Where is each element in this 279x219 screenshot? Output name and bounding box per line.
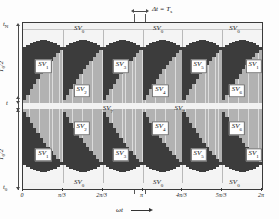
y-axis-label-t: t bbox=[6, 99, 8, 106]
sv-zero-label: SV0 bbox=[74, 24, 84, 33]
sv-active-label-dark: SV3 bbox=[113, 59, 129, 72]
x-tick-label: 0 bbox=[21, 192, 24, 198]
sv-label-subscript: 3 bbox=[124, 154, 127, 159]
x-tick-mark bbox=[142, 188, 143, 191]
delta-t-text: Δt = T bbox=[152, 5, 170, 13]
y-tick-tN-sub: N bbox=[5, 24, 9, 29]
y-mid-arrow-bottom bbox=[16, 108, 20, 111]
zero-vector-strip-mid bbox=[23, 103, 262, 109]
x-axis-label: ωt bbox=[116, 206, 123, 214]
sv-label-subscript: 4 bbox=[163, 90, 166, 95]
y-axis-label-t-text: t bbox=[6, 99, 8, 106]
sv-label-subscript: 1 bbox=[46, 154, 49, 159]
y-half-period-label-upper: T0/2 bbox=[0, 61, 6, 72]
x-tick-mark bbox=[22, 188, 23, 191]
sv-zero-label: SV7 bbox=[103, 104, 113, 113]
y-measure-lower bbox=[18, 112, 19, 190]
sv-label-text: SV bbox=[174, 104, 182, 112]
sv-label-text: SV bbox=[155, 123, 163, 131]
sv-label-subscript: 0 bbox=[237, 183, 240, 188]
sv-label-text: SV bbox=[153, 178, 161, 186]
plot-area: SV0SV0SV0SV1SV3SV5SV1SV2SV4SV6SV7SV7SV2S… bbox=[22, 22, 263, 190]
y-measure-upper-arrow-top bbox=[16, 23, 20, 26]
sv-label-text: SV bbox=[232, 123, 240, 131]
sv-active-label-light: SV2 bbox=[73, 122, 89, 135]
x-tick-mark bbox=[102, 188, 103, 191]
half-period-lower-T: T bbox=[0, 157, 4, 161]
sv-label-subscript: 6 bbox=[240, 90, 243, 95]
sv-active-label-light: SV4 bbox=[152, 84, 168, 97]
sv-label-subscript: 0 bbox=[82, 183, 85, 188]
sv-active-label-dark: SV3 bbox=[113, 148, 129, 161]
delta-t-label: Δt = Ts bbox=[152, 5, 172, 14]
sv-label-subscript: 0 bbox=[237, 28, 240, 33]
delta-t-arrow-right bbox=[146, 9, 149, 13]
sv-zero-label: SV0 bbox=[229, 24, 239, 33]
sv-label-text: SV bbox=[38, 60, 46, 68]
sv-label-subscript: 0 bbox=[161, 183, 164, 188]
x-axis-arrow-line bbox=[131, 210, 149, 211]
half-period-upper-den: /2 bbox=[0, 61, 4, 66]
y-half-period-label-lower: T0/2 bbox=[0, 149, 6, 160]
sv-active-label-light: SV2 bbox=[73, 84, 89, 97]
figure-svm-switching-pattern: Δt = Ts tN t0 t T0/2 T0/2 SV0SV0SV0SV1SV… bbox=[0, 0, 279, 219]
sv-label-text: SV bbox=[232, 85, 240, 93]
sv-segment-dark bbox=[259, 162, 263, 165]
x-tick-label: 2π bbox=[258, 192, 264, 198]
sv-label-text: SV bbox=[116, 149, 124, 157]
y-measure-lower-arrow-bottom bbox=[16, 187, 20, 190]
sv-zero-label: SV0 bbox=[153, 24, 163, 33]
sv-label-text: SV bbox=[248, 149, 256, 157]
sv-label-subscript: 5 bbox=[201, 154, 204, 159]
sv-zero-label: SV0 bbox=[153, 178, 163, 187]
sv-label-text: SV bbox=[116, 60, 124, 68]
delta-t-subscript: s bbox=[170, 9, 172, 14]
x-tick-mark bbox=[261, 188, 262, 191]
sv-active-label-light: SV6 bbox=[229, 122, 245, 135]
delta-t-measure-line bbox=[134, 11, 146, 12]
x-axis-label-text: ωt bbox=[116, 206, 123, 214]
y-tick-t0-sub: 0 bbox=[5, 187, 8, 192]
sv-label-text: SV bbox=[248, 60, 256, 68]
sv-label-subscript: 1 bbox=[256, 65, 259, 70]
sv-zero-label: SV7 bbox=[174, 104, 184, 113]
sv-label-text: SV bbox=[76, 123, 84, 131]
half-period-upper-sub: 0 bbox=[1, 66, 6, 69]
x-tick-mark bbox=[221, 188, 222, 191]
x-tick-label: π bbox=[140, 192, 143, 198]
sv-label-subscript: 0 bbox=[82, 28, 85, 33]
x-tick-mark bbox=[181, 188, 182, 191]
sv-label-subscript: 0 bbox=[161, 28, 164, 33]
sv-label-subscript: 6 bbox=[240, 127, 243, 132]
sv-active-label-dark: SV1 bbox=[35, 59, 51, 72]
sv-label-text: SV bbox=[194, 149, 202, 157]
y-tick-label-t0: t0 bbox=[3, 183, 7, 192]
sv-label-text: SV bbox=[38, 149, 46, 157]
sv-label-text: SV bbox=[229, 178, 237, 186]
delta-t-arrow-left bbox=[131, 9, 134, 13]
y-measure-upper bbox=[18, 26, 19, 104]
sv-active-label-light: SV6 bbox=[229, 84, 245, 97]
sv-active-label-dark: SV1 bbox=[245, 148, 261, 161]
x-axis-arrow-head bbox=[149, 208, 153, 212]
sv-label-subscript: 3 bbox=[124, 65, 127, 70]
sv-segment-dark bbox=[259, 47, 263, 50]
sv-label-text: SV bbox=[229, 24, 237, 32]
x-tick-mark bbox=[62, 188, 63, 191]
half-period-lower-den: /2 bbox=[0, 149, 4, 154]
half-period-lower-sub: 0 bbox=[1, 154, 6, 157]
sv-label-text: SV bbox=[153, 24, 161, 32]
x-tick-label: 4π/3 bbox=[176, 192, 187, 198]
sv-label-subscript: 7 bbox=[110, 109, 113, 114]
sv-label-subscript: 4 bbox=[163, 127, 166, 132]
sv-label-subscript: 2 bbox=[84, 127, 87, 132]
sv-active-label-light: SV4 bbox=[152, 122, 168, 135]
y-tick-label-tN: tN bbox=[3, 20, 8, 29]
sv-label-text: SV bbox=[74, 24, 82, 32]
sv-active-label-dark: SV5 bbox=[191, 148, 207, 161]
sv-active-label-dark: SV1 bbox=[245, 59, 261, 72]
sv-label-subscript: 5 bbox=[201, 65, 204, 70]
sv-zero-label: SV0 bbox=[74, 178, 84, 187]
sv-label-subscript: 7 bbox=[182, 109, 185, 114]
sv-label-subscript: 2 bbox=[84, 90, 87, 95]
